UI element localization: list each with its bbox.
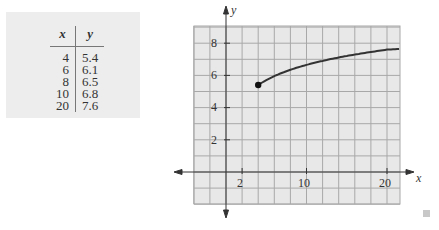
- x-tick-10: 10: [298, 176, 310, 190]
- y-tick-8: 8: [211, 36, 217, 50]
- y-tick-2: 2: [211, 133, 217, 147]
- chart: x y 2 10 20 2 4 6 8: [0, 0, 439, 230]
- x-axis-label: x: [415, 171, 422, 185]
- y-tick-6: 6: [211, 68, 217, 82]
- end-of-figure-marker: [423, 210, 430, 217]
- y-axis-label: y: [230, 3, 237, 17]
- start-point-marker: [255, 82, 261, 88]
- y-tick-4: 4: [211, 100, 217, 114]
- x-tick-2: 2: [237, 176, 243, 190]
- x-tick-20: 20: [379, 176, 391, 190]
